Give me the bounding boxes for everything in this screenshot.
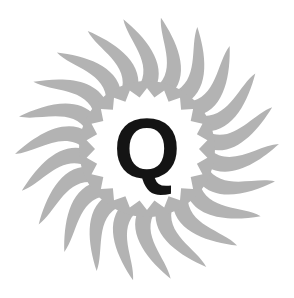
logo-letter: Q: [0, 0, 294, 298]
sun-logo: Q: [0, 0, 294, 298]
